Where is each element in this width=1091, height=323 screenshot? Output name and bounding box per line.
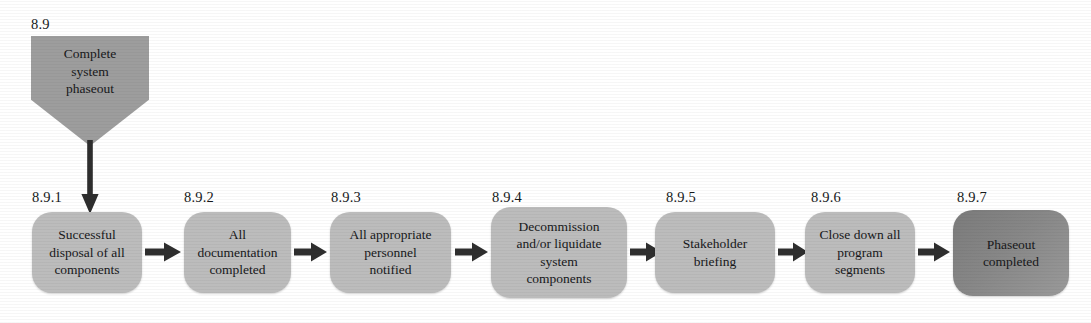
node-label-8-9-3: 8.9.3 xyxy=(331,190,361,205)
process-node-8-9-3[interactable]: All appropriate personnel notified xyxy=(330,212,451,293)
process-node-8-9-2-line-3: completed xyxy=(191,261,284,279)
process-node-8-9-7[interactable]: Phaseout completed xyxy=(953,210,1069,296)
process-node-8-9-4[interactable]: Decommission and/or liquidate system com… xyxy=(491,207,627,298)
node-label-8-9-5: 8.9.5 xyxy=(666,190,696,205)
start-node-text: Complete system phaseout xyxy=(31,36,149,98)
process-node-8-9-1-line-2: disposal of all xyxy=(39,244,135,262)
node-label-8-9-2: 8.9.2 xyxy=(184,190,214,205)
connector-step3-to-step4-arrow xyxy=(455,241,488,263)
process-node-8-9-3-text: All appropriate personnel notified xyxy=(330,226,451,279)
process-node-8-9-1-text: Successful disposal of all components xyxy=(32,226,142,279)
node-label-8-9-7: 8.9.7 xyxy=(957,190,987,205)
process-node-8-9-2-text: All documentation completed xyxy=(184,226,291,279)
node-label-8-9: 8.9 xyxy=(31,17,50,32)
process-node-8-9-4-line-1: Decommission xyxy=(498,218,620,236)
process-node-8-9-2-line-2: documentation xyxy=(191,244,284,262)
connector-start-to-step1-arrow xyxy=(80,140,100,216)
process-node-8-9-3-line-3: notified xyxy=(337,261,444,279)
start-node-text-line-2: system xyxy=(31,63,149,81)
process-node-8-9-4-line-2: and/or liquidate xyxy=(498,235,620,253)
process-node-8-9-6[interactable]: Close down all program segments xyxy=(805,212,915,293)
process-node-8-9-7-line-1: Phaseout xyxy=(960,236,1062,254)
process-node-8-9-7-text: Phaseout completed xyxy=(953,236,1069,271)
process-node-8-9-2-line-1: All xyxy=(191,226,284,244)
process-node-8-9-4-line-4: components xyxy=(498,270,620,288)
start-node-complete-system-phaseout[interactable]: Complete system phaseout xyxy=(31,36,149,146)
process-node-8-9-7-line-2: completed xyxy=(960,253,1062,271)
process-node-8-9-5[interactable]: Stakeholder briefing xyxy=(655,212,775,293)
process-node-8-9-6-text: Close down all program segments xyxy=(805,226,915,279)
process-node-8-9-6-line-3: segments xyxy=(812,261,908,279)
node-label-8-9-4: 8.9.4 xyxy=(492,190,522,205)
process-node-8-9-2[interactable]: All documentation completed xyxy=(184,212,291,293)
node-label-8-9-6: 8.9.6 xyxy=(811,190,841,205)
process-node-8-9-3-line-2: personnel xyxy=(337,244,444,262)
connector-step5-to-step6-arrow xyxy=(778,241,808,263)
process-node-8-9-6-line-2: program xyxy=(812,244,908,262)
start-node-text-line-1: Complete xyxy=(31,45,149,63)
process-node-8-9-5-line-1: Stakeholder xyxy=(662,235,768,253)
start-node-text-line-3: phaseout xyxy=(31,80,149,98)
connector-step6-to-step7-arrow xyxy=(918,241,950,263)
process-node-8-9-3-line-1: All appropriate xyxy=(337,226,444,244)
process-node-8-9-5-line-2: briefing xyxy=(662,253,768,271)
process-node-8-9-4-line-3: system xyxy=(498,253,620,271)
process-node-8-9-1[interactable]: Successful disposal of all components xyxy=(32,212,142,293)
connector-step1-to-step2-arrow xyxy=(145,241,181,263)
process-node-8-9-4-text: Decommission and/or liquidate system com… xyxy=(491,218,627,288)
process-node-8-9-5-text: Stakeholder briefing xyxy=(655,235,775,270)
node-label-8-9-1: 8.9.1 xyxy=(32,190,62,205)
process-node-8-9-6-line-1: Close down all xyxy=(812,226,908,244)
connector-step2-to-step3-arrow xyxy=(294,241,327,263)
process-node-8-9-1-line-3: components xyxy=(39,261,135,279)
phaseout-flow-diagram: 8.9 Complete system phaseout 8.9.1 Succe… xyxy=(0,0,1091,323)
process-node-8-9-1-line-1: Successful xyxy=(39,226,135,244)
